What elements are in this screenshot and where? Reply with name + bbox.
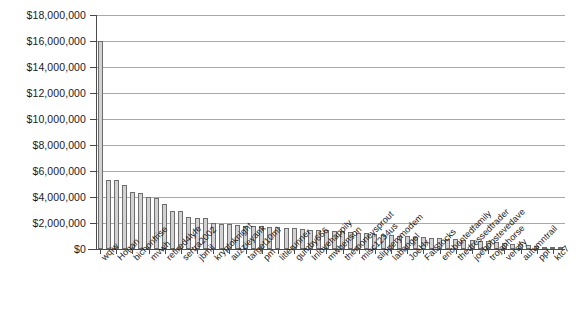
y-tick-mark — [90, 119, 96, 120]
bar — [114, 180, 119, 249]
bar — [122, 185, 127, 249]
bar — [106, 180, 111, 249]
y-tick-mark — [90, 15, 96, 16]
y-tick-mark — [90, 197, 96, 198]
chart-screenshot: $0$2,000,000$4,000,000$6,000,000$8,000,0… — [0, 0, 579, 329]
y-tick-label: $10,000,000 — [27, 114, 87, 125]
y-tick-label: $16,000,000 — [27, 36, 87, 47]
y-axis-tick-labels: $0$2,000,000$4,000,000$6,000,000$8,000,0… — [0, 0, 86, 329]
y-tick-mark — [90, 41, 96, 42]
y-tick-label: $0 — [74, 244, 86, 255]
y-tick-label: $4,000,000 — [32, 192, 86, 203]
y-tick-label: $2,000,000 — [32, 218, 86, 229]
y-tick-mark — [90, 223, 96, 224]
bar — [98, 41, 103, 249]
y-tick-label: $12,000,000 — [27, 88, 87, 99]
y-tick-label: $14,000,000 — [27, 62, 87, 73]
y-tick-mark — [90, 145, 96, 146]
y-tick-label: $6,000,000 — [32, 166, 86, 177]
bar-series — [96, 15, 565, 249]
y-tick-label: $18,000,000 — [27, 10, 87, 21]
y-tick-mark — [90, 171, 96, 172]
y-tick-mark — [90, 67, 96, 68]
y-tick-mark — [90, 249, 96, 250]
y-tick-label: $8,000,000 — [32, 140, 86, 151]
y-tick-mark — [90, 93, 96, 94]
